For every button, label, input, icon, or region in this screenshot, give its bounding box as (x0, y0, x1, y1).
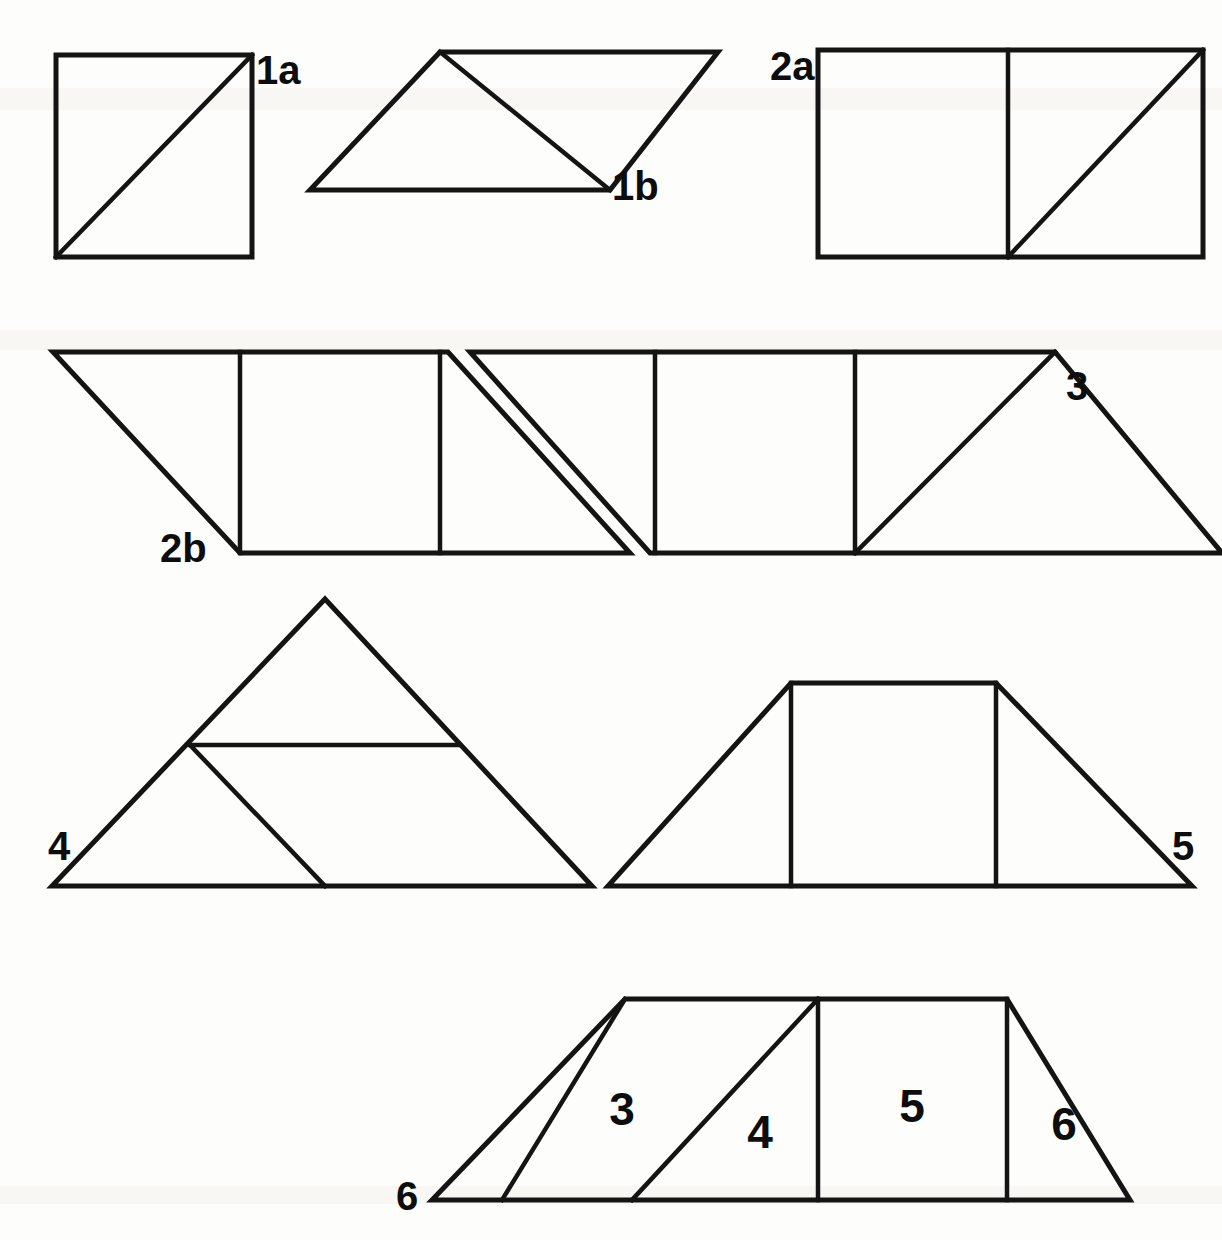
figure-1a-label: 1a (256, 48, 301, 92)
figure-3-label: 3 (1066, 364, 1088, 408)
paper-scan-band-upper (0, 88, 1222, 110)
figure-6-region-4-label: 4 (747, 1106, 773, 1158)
figure-1b-label: 1b (612, 164, 659, 208)
figure-2a-label: 2a (770, 44, 815, 88)
figure-sheet: 1a 1b 2a 2b 3 (0, 0, 1222, 1240)
figure-6-label: 6 (396, 1174, 418, 1218)
diagram-canvas: 1a 1b 2a 2b 3 (0, 0, 1222, 1240)
figure-6-region-6-label: 6 (1051, 1098, 1077, 1150)
figure-6-region-5-label: 5 (899, 1080, 925, 1132)
figure-6-region-3-label: 3 (609, 1083, 635, 1135)
figure-4-label: 4 (48, 824, 71, 868)
figure-5-label: 5 (1172, 824, 1194, 868)
paper-scan-band-mid (0, 330, 1222, 350)
figure-2b-label: 2b (160, 526, 207, 570)
